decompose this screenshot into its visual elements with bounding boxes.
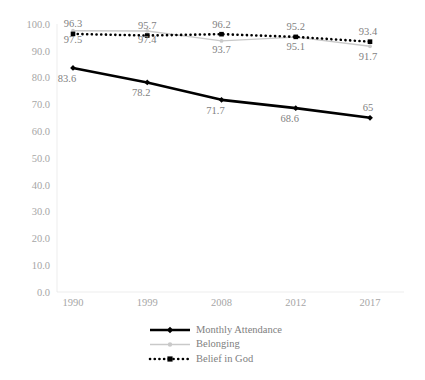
data-point-label: 95.2 — [287, 21, 305, 32]
legend-item-label[interactable]: Belief in God — [196, 353, 254, 364]
chart-canvas: 100.090.080.070.060.050.040.030.020.010.… — [0, 0, 425, 380]
data-point-marker — [293, 35, 298, 40]
x-axis-tick-label: 2012 — [285, 297, 306, 308]
data-point-label: 95.7 — [138, 20, 156, 31]
y-axis-tick-label: 20.0 — [32, 233, 50, 244]
data-point-label: 93.4 — [359, 26, 378, 37]
data-point-marker — [70, 65, 76, 71]
legend-swatch-marker — [167, 356, 172, 361]
x-axis-tick-label: 1999 — [137, 297, 158, 308]
data-point-label: 96.3 — [64, 18, 82, 29]
y-axis-tick-labels: 100.090.080.070.060.050.040.030.020.010.… — [26, 19, 50, 298]
y-axis-tick-label: 0.0 — [37, 287, 50, 298]
y-axis-tick-label: 10.0 — [32, 260, 50, 271]
x-axis-tick-label: 2017 — [360, 297, 381, 308]
y-axis-tick-label: 50.0 — [32, 153, 50, 164]
data-point-label: 97.4 — [138, 34, 157, 45]
data-point-marker — [219, 32, 224, 37]
y-axis-tick-label: 60.0 — [32, 126, 50, 137]
legend-item-label[interactable]: Monthly Attendance — [196, 324, 282, 335]
y-axis-tick-label: 90.0 — [32, 46, 50, 57]
x-axis-tick-labels: 19901999200820122017 — [63, 297, 381, 308]
data-point-label: 71.7 — [206, 105, 224, 116]
data-point-label: 65 — [363, 102, 374, 113]
data-point-marker — [144, 80, 150, 86]
data-point-marker — [219, 97, 225, 103]
data-point-marker — [368, 39, 373, 44]
data-point-label: 93.7 — [212, 44, 230, 55]
data-point-label: 95.1 — [287, 41, 305, 52]
x-axis-tick-label: 1990 — [63, 297, 84, 308]
data-point-marker — [220, 39, 224, 43]
data-point-label: 97.5 — [64, 34, 82, 45]
y-axis-tick-label: 70.0 — [32, 99, 50, 110]
data-point-marker — [368, 44, 372, 48]
legend-swatch-marker — [167, 327, 173, 333]
y-axis-tick-label: 100.0 — [26, 19, 50, 30]
data-point-label: 91.7 — [359, 51, 377, 62]
legend-item-label[interactable]: Belonging — [196, 338, 240, 349]
data-point-marker — [367, 115, 373, 121]
data-point-label: 68.6 — [281, 113, 299, 124]
x-axis-tick-label: 2008 — [211, 297, 232, 308]
legend-swatch-marker — [168, 342, 172, 346]
data-point-label: 96.2 — [212, 19, 230, 30]
y-axis-tick-label: 30.0 — [32, 206, 50, 217]
line-chart: 100.090.080.070.060.050.040.030.020.010.… — [0, 0, 425, 380]
data-point-marker — [293, 105, 299, 111]
chart-legend: Monthly AttendanceBelongingBelief in God — [150, 324, 282, 364]
data-point-label: 83.6 — [58, 73, 76, 84]
y-axis-tick-label: 40.0 — [32, 180, 50, 191]
y-axis-tick-label: 80.0 — [32, 72, 50, 83]
data-point-label: 78.2 — [132, 87, 150, 98]
